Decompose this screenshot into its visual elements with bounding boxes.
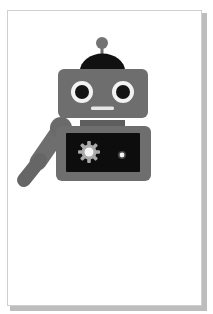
dome-icon <box>80 54 125 71</box>
screen-icon <box>66 133 140 172</box>
gear-icon <box>78 141 100 163</box>
robot-illustration <box>0 0 213 314</box>
left-eye-icon <box>71 81 93 103</box>
mouth-icon <box>91 107 114 111</box>
right-eye-icon <box>112 81 134 103</box>
light-icon <box>118 151 126 159</box>
stage: Robot illustration <box>0 0 213 314</box>
